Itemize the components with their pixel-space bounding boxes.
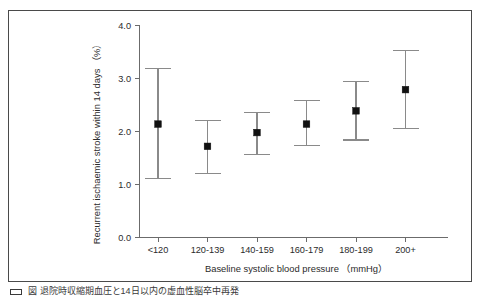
data-point-marker bbox=[303, 121, 310, 128]
x-tick-label-2: 140-159 bbox=[240, 245, 274, 255]
legend-swatch-icon bbox=[10, 289, 22, 295]
data-point-group bbox=[294, 101, 320, 146]
data-point-group bbox=[195, 120, 221, 174]
y-axis-ticks: 4.0 3.0 2.0 1.0 0.0 bbox=[118, 21, 139, 243]
data-point-marker bbox=[353, 108, 360, 115]
x-tick-label-4: 180-199 bbox=[339, 245, 373, 255]
x-tick-label-3: 160-179 bbox=[290, 245, 324, 255]
data-point-group bbox=[145, 68, 171, 178]
figure-caption-text: 図 退院時収縮期血圧と14日以内の虚血性脳卒中再発 bbox=[28, 286, 239, 296]
x-tick-label-5: 200+ bbox=[395, 245, 416, 255]
data-point-group bbox=[343, 82, 369, 140]
y-tick-label-3: 3.0 bbox=[118, 74, 131, 84]
x-axis-ticks bbox=[158, 238, 406, 243]
x-axis-title: Baseline systolic blood pressure （mmHg） bbox=[205, 263, 387, 274]
data-point-marker bbox=[204, 143, 211, 150]
data-point-marker bbox=[402, 86, 409, 93]
x-tick-label-0: <120 bbox=[148, 245, 169, 255]
y-tick-label-2: 2.0 bbox=[118, 127, 131, 137]
x-axis-tick-labels: <120120-139140-159160-179180-199200+ bbox=[148, 245, 416, 255]
data-series-layer bbox=[145, 51, 419, 178]
data-point-group bbox=[244, 112, 270, 154]
y-tick-label-1: 1.0 bbox=[118, 180, 131, 190]
y-tick-label-0: 0.0 bbox=[118, 233, 131, 243]
figure-caption: 図 退院時収縮期血圧と14日以内の虚血性脳卒中再発 bbox=[10, 284, 470, 297]
y-tick-label-4: 4.0 bbox=[118, 21, 131, 31]
data-point-marker bbox=[155, 121, 162, 128]
x-tick-label-1: 120-139 bbox=[191, 245, 225, 255]
data-point-marker bbox=[254, 129, 261, 136]
y-axis-title: Recurrent ischaemic stroke within 14 day… bbox=[91, 40, 102, 245]
data-point-group bbox=[393, 51, 419, 129]
error-bar-chart: Recurrent ischaemic stroke within 14 day… bbox=[8, 10, 472, 282]
